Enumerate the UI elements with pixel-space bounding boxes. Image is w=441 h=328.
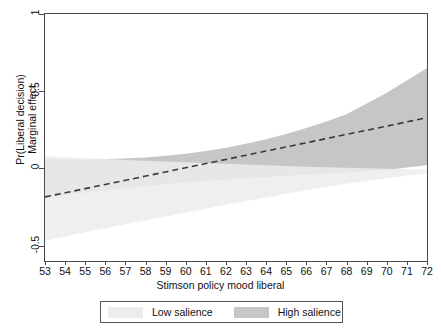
x-tick-label: 64	[255, 265, 277, 277]
legend-label-high-salience: High salience	[278, 306, 341, 318]
low-salience-swatch	[108, 307, 143, 318]
x-tick-label: 59	[155, 265, 177, 277]
x-tick-label: 72	[416, 265, 438, 277]
x-tick-label: 62	[215, 265, 237, 277]
x-tick-label: 67	[315, 265, 337, 277]
legend-item-high-salience: High salience	[234, 306, 341, 318]
x-tick-label: 54	[54, 265, 76, 277]
x-tick-label: 71	[396, 265, 418, 277]
y-tick-label: 0.5	[30, 73, 41, 107]
y-tick-label: 0	[30, 150, 41, 184]
x-tick-label: 53	[34, 265, 56, 277]
plot-svg	[45, 14, 427, 261]
x-tick-label: 69	[356, 265, 378, 277]
chart-legend: Low salience High salience	[100, 301, 343, 323]
high-salience-swatch	[234, 307, 269, 318]
y-axis-title-line1: Pr(Liberal decision)	[15, 45, 27, 195]
x-tick-label: 68	[336, 265, 358, 277]
marginal-effect-chart: Pr(Liberal decision) Marginal effect 10.…	[0, 0, 441, 328]
x-tick-label: 65	[275, 265, 297, 277]
plot-area	[44, 13, 428, 262]
x-tick-label: 63	[235, 265, 257, 277]
x-tick-label: 55	[74, 265, 96, 277]
x-tick-label: 56	[94, 265, 116, 277]
low-salience-band	[45, 156, 427, 240]
legend-label-low-salience: Low salience	[152, 306, 213, 318]
y-tick-label: -0.5	[30, 227, 41, 261]
x-tick-label: 60	[175, 265, 197, 277]
x-tick-label: 66	[295, 265, 317, 277]
x-tick-label: 57	[114, 265, 136, 277]
legend-item-low-salience: Low salience	[108, 306, 213, 318]
x-tick-label: 58	[135, 265, 157, 277]
x-tick-label: 70	[376, 265, 398, 277]
x-axis-title: Stimson policy mood liberal	[0, 279, 441, 291]
x-tick-label: 61	[195, 265, 217, 277]
